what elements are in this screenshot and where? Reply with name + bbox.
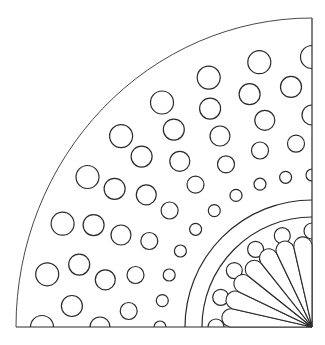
ring-circle [136, 185, 156, 205]
ring-circle [61, 296, 82, 317]
ring-circle [95, 270, 115, 290]
fan-petals [222, 237, 312, 327]
ring-circle [151, 91, 174, 114]
ring-circle [254, 178, 266, 190]
ring-circle [187, 176, 204, 193]
ring-circle [239, 84, 260, 105]
ring-circle [174, 245, 186, 257]
ring-circle [280, 171, 292, 183]
ring-circle [156, 295, 168, 307]
ring-circle [104, 178, 125, 199]
ring-circle [170, 151, 190, 171]
ring-circle [210, 126, 230, 146]
ring-circle [83, 215, 104, 236]
ring-circle [51, 212, 74, 235]
ring-circle [255, 110, 275, 130]
ring-circle [163, 119, 184, 140]
ring-circle [141, 233, 158, 250]
ring-circle [36, 263, 59, 286]
ring-circle [120, 303, 137, 320]
ring-circle [197, 66, 220, 89]
ring-circle [111, 225, 131, 245]
ring-circle [190, 223, 202, 235]
ring-circle [127, 267, 144, 284]
ring-circle [110, 125, 133, 148]
ring-circle [218, 156, 235, 173]
ring-circle [76, 166, 99, 189]
ring-circle [252, 142, 269, 159]
ring-circle [248, 51, 271, 74]
ring-circle [163, 269, 175, 281]
ring-circle [131, 146, 152, 167]
ring-circle [288, 135, 305, 152]
ring-circle [208, 205, 220, 217]
quarter-circle-diagram [0, 0, 325, 345]
ring-circle [69, 254, 90, 275]
ring-circle [230, 189, 242, 201]
ring-circle [200, 98, 221, 119]
ring-circle [161, 202, 178, 219]
diagram-canvas [0, 0, 325, 345]
ring-circle [281, 76, 302, 97]
